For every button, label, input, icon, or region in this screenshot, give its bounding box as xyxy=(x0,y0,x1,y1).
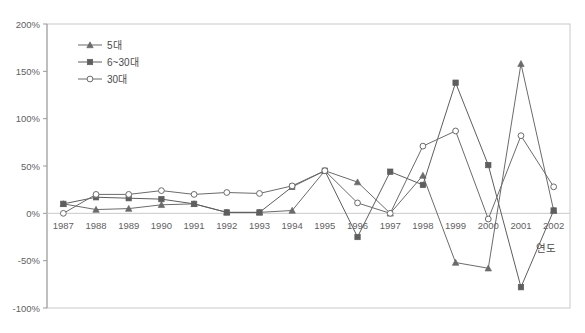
data-point-marker-circle xyxy=(387,210,393,216)
x-tick-label: 1992 xyxy=(216,220,237,231)
line-chart: 200%150%100%50%0%-50%-100% 1987198819891… xyxy=(0,0,585,333)
data-point-marker-square xyxy=(159,196,164,201)
x-tick-label: 2001 xyxy=(510,220,531,231)
data-point-marker-circle xyxy=(60,210,66,216)
data-point-marker-square xyxy=(388,169,393,174)
x-tick-label: 1987 xyxy=(53,220,74,231)
data-point-marker-square xyxy=(453,80,458,85)
data-point-marker-circle xyxy=(485,216,491,222)
data-point-marker-square xyxy=(518,284,523,289)
data-point-marker-circle xyxy=(420,143,426,149)
y-tick-label: -100% xyxy=(13,303,41,314)
data-point-marker-circle xyxy=(93,192,99,198)
x-tick-label: 1994 xyxy=(282,220,303,231)
y-tick-label: -50% xyxy=(18,255,41,266)
x-tick-label: 1993 xyxy=(249,220,270,231)
data-point-marker-circle xyxy=(322,168,328,174)
data-point-marker-square xyxy=(61,201,66,206)
y-tick-label: 0% xyxy=(26,208,40,219)
x-tick-label: 1989 xyxy=(118,220,139,231)
x-axis-title: 연도 xyxy=(536,242,556,254)
x-tick-label: 1998 xyxy=(412,220,433,231)
y-tick-label: 50% xyxy=(21,161,41,172)
data-point-marker-circle xyxy=(289,183,295,189)
x-tick-label: 1991 xyxy=(184,220,205,231)
legend-label: 6~30대 xyxy=(107,57,139,68)
chart-canvas: 200%150%100%50%0%-50%-100% 1987198819891… xyxy=(0,0,585,333)
x-tick-label: 1997 xyxy=(380,220,401,231)
data-point-marker-circle xyxy=(257,191,263,197)
data-point-marker-square xyxy=(257,210,262,215)
data-point-marker-circle xyxy=(224,190,230,196)
x-tick-label: 1988 xyxy=(85,220,106,231)
chart-background xyxy=(0,0,585,333)
x-tick-label: 1990 xyxy=(151,220,172,231)
data-point-marker-circle xyxy=(355,200,361,206)
data-point-marker-circle xyxy=(453,128,459,134)
data-point-marker-square xyxy=(486,162,491,167)
data-point-marker-square xyxy=(224,210,229,215)
data-point-marker-circle xyxy=(159,188,165,194)
data-point-marker-square xyxy=(551,208,556,213)
data-point-marker-circle xyxy=(191,192,197,198)
legend-label: 30대 xyxy=(107,74,127,85)
y-tick-label: 150% xyxy=(16,66,41,77)
data-point-marker-circle xyxy=(518,133,524,139)
data-point-marker-square xyxy=(355,234,360,239)
x-tick-label: 1999 xyxy=(445,220,466,231)
data-point-marker-circle xyxy=(126,192,132,198)
x-tick-label: 1995 xyxy=(314,220,335,231)
data-point-marker-square xyxy=(87,59,92,64)
y-tick-label: 100% xyxy=(16,113,41,124)
data-point-marker-circle xyxy=(87,76,93,82)
legend-label: 5대 xyxy=(107,40,122,51)
y-tick-label: 200% xyxy=(16,19,41,30)
data-point-marker-square xyxy=(191,201,196,206)
x-tick-label: 2002 xyxy=(543,220,564,231)
data-point-marker-square xyxy=(420,182,425,187)
data-point-marker-circle xyxy=(551,184,557,190)
